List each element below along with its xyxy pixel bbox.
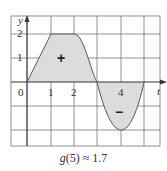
axes (11, 19, 163, 146)
plus-sign: + (57, 50, 65, 66)
x-tick-4: 4 (118, 86, 124, 98)
caption-value: ≈ 1.7 (80, 151, 108, 165)
y-tick-1: 1 (17, 51, 23, 63)
x-tick-2: 2 (71, 86, 77, 98)
y-axis-label: y (17, 14, 23, 26)
chart: y t 2 1 0 1 2 4 + − (0, 0, 167, 150)
y-tick-2: 2 (17, 27, 23, 39)
t-axis-arrow-icon (160, 80, 167, 85)
x-tick-1: 1 (48, 86, 54, 98)
minus-sign: − (115, 104, 123, 120)
caption-argument: (5) (66, 151, 80, 165)
origin-label: 0 (18, 86, 24, 98)
caption: g(5) ≈ 1.7 (0, 151, 167, 166)
